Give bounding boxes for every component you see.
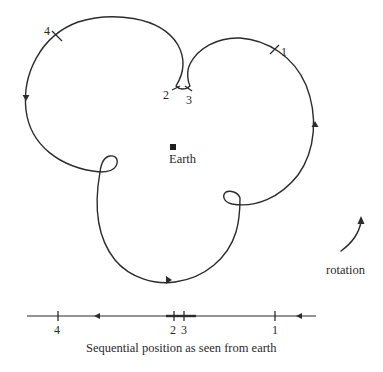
sequential-position-axis: [27, 311, 316, 321]
axis-label-3: 3: [181, 323, 187, 337]
orbit-marker-3-label: 3: [186, 93, 192, 107]
orbit-marker-4-label: 4: [44, 24, 50, 38]
direction-arrow-left-icon: [23, 95, 30, 101]
earth-label: Earth: [169, 152, 197, 166]
axis-label-2: 2: [170, 323, 176, 337]
earth-marker-icon: [170, 144, 176, 150]
direction-arrow-right-icon: [312, 121, 319, 127]
axis-arrow-left-icon: [94, 313, 100, 319]
orbit-path: [25, 17, 313, 283]
axis-label-4: 4: [54, 323, 60, 337]
axis-caption: Sequential position as seen from earth: [86, 341, 277, 355]
orbit-marker-1-label: 1: [281, 45, 287, 59]
rotation-arrow-icon: [341, 216, 365, 251]
orbit-marker-2-label: 2: [163, 88, 169, 102]
epicycle-diagram: 4 1 2 3 Earth rotation 4 2 3 1 Sequentia…: [0, 0, 383, 372]
axis-label-1: 1: [272, 323, 278, 337]
axis-arrow-right-icon: [296, 313, 302, 319]
rotation-label: rotation: [326, 263, 366, 277]
